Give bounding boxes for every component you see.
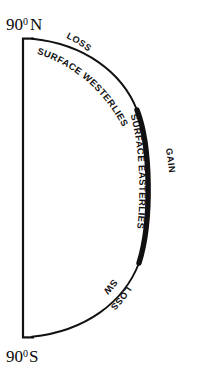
- south-pole-label: 900S: [6, 347, 38, 366]
- south-pole-value: 90: [6, 347, 23, 366]
- surface-westerlies-text: SURFACE WESTERLIES: [36, 45, 131, 128]
- north-pole-label: 900N: [6, 15, 42, 34]
- south-pole-hemisphere: S: [29, 347, 38, 366]
- surface-westerlies-label: SURFACE WESTERLIES: [36, 45, 131, 128]
- diagram-canvas: 900N 900S SURFACE WESTERLIES LOSS SURFAC…: [0, 0, 197, 376]
- north-pole-degree: 0: [23, 16, 28, 27]
- gain-label: GAIN: [164, 147, 177, 173]
- loss-north-label: LOSS: [65, 31, 93, 54]
- north-pole-hemisphere: N: [30, 15, 42, 34]
- north-pole-value: 90: [6, 15, 23, 34]
- south-pole-degree: 0: [23, 348, 28, 359]
- sw-south-label: SW: [101, 278, 120, 297]
- sw-south-text: SW: [101, 278, 120, 297]
- loss-north-text: LOSS: [65, 31, 93, 54]
- heat-balance-diagram: 900N 900S SURFACE WESTERLIES LOSS SURFAC…: [0, 0, 197, 376]
- gain-text: GAIN: [164, 147, 177, 173]
